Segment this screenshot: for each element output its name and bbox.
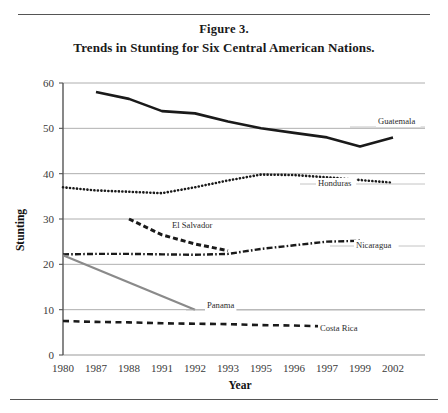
x-tick-1988: 1988 bbox=[118, 362, 141, 374]
y-tick-labels: 0102030405060 bbox=[43, 77, 55, 361]
x-tick-2002: 2002 bbox=[382, 362, 404, 374]
x-tick-1995: 1995 bbox=[250, 362, 273, 374]
series-line-costa-rica bbox=[63, 321, 360, 327]
figure-page: Figure 3. Trends in Stunting for Six Cen… bbox=[0, 0, 448, 413]
axes bbox=[59, 83, 63, 355]
y-axis-label: Stunting bbox=[14, 209, 27, 251]
label-leader-lines bbox=[186, 127, 425, 310]
series-label-panama: Panama bbox=[207, 300, 234, 310]
series-line-guatemala bbox=[96, 92, 393, 146]
series-annotations: GuatemalaHondurasEl SalvadorNicaraguaPan… bbox=[170, 116, 421, 334]
x-axis-label: Year bbox=[229, 379, 252, 391]
y-tick-0: 0 bbox=[49, 349, 55, 361]
x-tick-1997: 1997 bbox=[316, 362, 339, 374]
x-tick-1991: 1991 bbox=[151, 362, 173, 374]
series-label-el-salvador: El Salvador bbox=[172, 220, 212, 230]
series-label-costa-rica: Costa Rica bbox=[320, 323, 358, 333]
x-tick-1996: 1996 bbox=[283, 362, 306, 374]
series-line-nicaragua bbox=[63, 241, 360, 255]
series-lines bbox=[63, 92, 393, 327]
stunting-line-chart: 0102030405060 19801987198819911992199319… bbox=[0, 0, 448, 413]
series-line-panama bbox=[63, 255, 195, 309]
bottom-rule bbox=[10, 399, 438, 400]
series-label-honduras: Honduras bbox=[318, 178, 352, 188]
y-tick-20: 20 bbox=[43, 258, 55, 270]
chart-area: 0102030405060 19801987198819911992199319… bbox=[0, 0, 448, 413]
x-tick-1987: 1987 bbox=[85, 362, 108, 374]
x-tick-1999: 1999 bbox=[349, 362, 372, 374]
y-tick-40: 40 bbox=[43, 168, 55, 180]
y-tick-60: 60 bbox=[43, 77, 55, 89]
y-tick-30: 30 bbox=[43, 213, 55, 225]
x-tick-1980: 1980 bbox=[52, 362, 75, 374]
y-tick-50: 50 bbox=[43, 122, 55, 134]
y-tick-10: 10 bbox=[43, 304, 55, 316]
series-label-guatemala: Guatemala bbox=[378, 116, 415, 126]
series-label-nicaragua: Nicaragua bbox=[356, 240, 391, 250]
x-tick-labels: 1980198719881991199219931995199619971999… bbox=[52, 362, 404, 374]
x-tick-1993: 1993 bbox=[217, 362, 240, 374]
x-tick-1992: 1992 bbox=[184, 362, 206, 374]
